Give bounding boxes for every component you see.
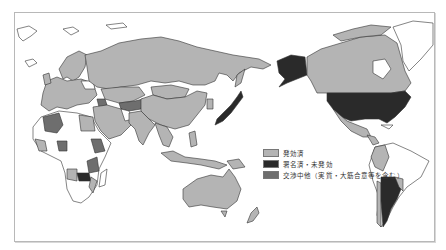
legend-item-negotiating: 交渉中他（実質・大筋合意等を含む） (263, 170, 404, 180)
legend-swatch-signed (263, 160, 279, 168)
region-iceland (25, 59, 37, 67)
region-caribbean (381, 125, 393, 129)
region-central-america (367, 135, 379, 145)
region-egypt (79, 115, 95, 131)
legend-swatch-negotiating (263, 171, 279, 179)
region-svalbard (63, 27, 79, 35)
legend-item-signed: 署名済・未発効 (263, 159, 404, 169)
region-west-africa (35, 139, 47, 151)
legend-label-in-force: 発効済 (283, 148, 304, 158)
region-zambia (77, 173, 91, 181)
legend-swatch-in-force (263, 149, 279, 157)
region-alaska (277, 55, 307, 87)
legend-label-signed: 署名済・未発効 (283, 159, 333, 169)
region-philippines (189, 131, 197, 147)
region-angola (67, 169, 77, 181)
region-madagascar (99, 169, 107, 187)
map-frame: 発効済 署名済・未発効 交渉中他（実質・大筋合意等を含む） (14, 12, 435, 242)
map-legend: 発効済 署名済・未発効 交渉中他（実質・大筋合意等を含む） (263, 148, 404, 181)
world-map (15, 13, 434, 241)
region-nigeria (57, 141, 67, 151)
legend-item-in-force: 発効済 (263, 148, 404, 158)
region-japan (215, 91, 243, 125)
region-russia (85, 37, 271, 89)
legend-label-negotiating: 交渉中他（実質・大筋合意等を含む） (283, 170, 404, 180)
region-new-zealand (247, 207, 259, 223)
region-indonesia (161, 151, 227, 169)
region-chile (377, 181, 381, 227)
region-arctic-islands (106, 23, 127, 29)
region-australia (183, 169, 241, 209)
region-canada (307, 35, 411, 93)
region-uk (43, 73, 51, 85)
region-greenland-west (17, 26, 37, 41)
region-tasmania (221, 211, 227, 217)
region-png (227, 159, 245, 169)
region-korea (207, 99, 213, 109)
region-scandinavia (59, 51, 87, 81)
